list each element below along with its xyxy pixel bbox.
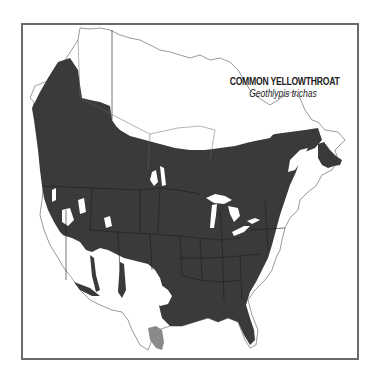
map-subtitle-scientific-name: Geothlypis trichas: [228, 88, 339, 99]
year-round-range-texas: [148, 326, 164, 350]
map-title-block: COMMON YELLOWTHROAT Geothlypis trichas: [218, 75, 348, 99]
bc-patch: [52, 188, 56, 202]
range-map: [0, 0, 382, 382]
map-title: COMMON YELLOWTHROAT: [230, 75, 337, 87]
